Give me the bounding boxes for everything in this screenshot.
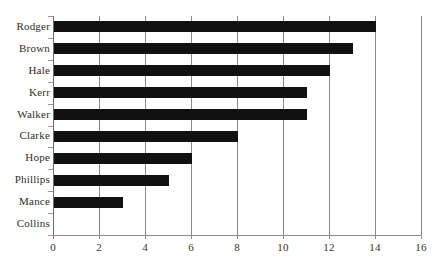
bar-clarke: [54, 131, 238, 142]
y-axis-tick-3: [48, 82, 53, 83]
x-axis-label-2: 2: [84, 241, 114, 253]
x-axis-label-10: 10: [268, 241, 298, 253]
y-axis-tick-6: [48, 147, 53, 148]
y-axis-label-clarke: Clarke: [0, 130, 50, 141]
y-axis-label-phillips: Phillips: [0, 174, 50, 185]
y-axis-label-kerr: Kerr: [0, 87, 50, 98]
x-axis-label-0: 0: [38, 241, 68, 253]
x-axis-label-8: 8: [222, 241, 252, 253]
y-axis-label-walker: Walker: [0, 109, 50, 120]
x-axis-tick-2: [99, 235, 100, 239]
x-axis-tick-4: [145, 235, 146, 239]
gridline-x-16: [421, 16, 422, 235]
y-axis-label-rodger: Rodger: [0, 21, 50, 32]
gridline-x-14: [375, 16, 376, 235]
y-axis-label-collins: Collins: [0, 218, 50, 229]
y-axis-tick-9: [48, 213, 53, 214]
bar-brown: [54, 43, 353, 54]
bar-chart: 0246810121416RodgerBrownHaleKerrWalkerCl…: [0, 0, 446, 270]
bar-phillips: [54, 175, 169, 186]
y-axis-tick-0: [48, 16, 53, 17]
y-axis-tick-8: [48, 191, 53, 192]
x-axis-label-14: 14: [360, 241, 390, 253]
y-axis-tick-1: [48, 38, 53, 39]
x-axis-tick-0: [53, 235, 54, 239]
bar-hale: [54, 65, 330, 76]
y-axis-label-hale: Hale: [0, 65, 50, 76]
y-axis-tick-10: [48, 235, 53, 236]
x-axis-tick-16: [421, 235, 422, 239]
x-axis-tick-14: [375, 235, 376, 239]
y-axis-tick-7: [48, 169, 53, 170]
bar-kerr: [54, 87, 307, 98]
bar-walker: [54, 109, 307, 120]
x-axis-label-4: 4: [130, 241, 160, 253]
plot-area: [53, 16, 421, 235]
x-axis-label-12: 12: [314, 241, 344, 253]
bar-mance: [54, 197, 123, 208]
y-axis-tick-4: [48, 104, 53, 105]
x-axis-tick-12: [329, 235, 330, 239]
bar-rodger: [54, 21, 376, 32]
bar-hope: [54, 153, 192, 164]
y-axis-tick-2: [48, 60, 53, 61]
x-axis-tick-6: [191, 235, 192, 239]
x-axis-tick-8: [237, 235, 238, 239]
y-axis-label-hope: Hope: [0, 152, 50, 163]
y-axis-tick-5: [48, 126, 53, 127]
x-axis-label-16: 16: [406, 241, 436, 253]
y-axis-label-mance: Mance: [0, 196, 50, 207]
x-axis-tick-10: [283, 235, 284, 239]
y-axis-label-brown: Brown: [0, 43, 50, 54]
x-axis-label-6: 6: [176, 241, 206, 253]
